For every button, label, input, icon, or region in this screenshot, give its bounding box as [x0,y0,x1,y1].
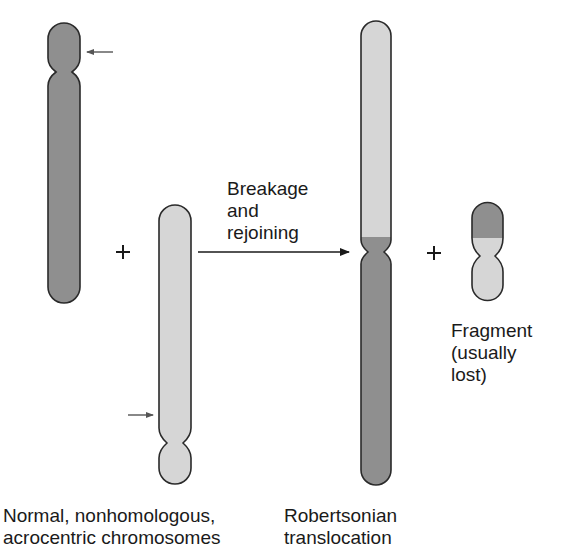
plus-sign-icon [427,246,441,260]
fragment-label-line: lost) [451,364,532,386]
acrocentric-chromosome-light [159,205,191,484]
fragment-chromosome [468,195,508,308]
process-label-line: Breakage [227,178,308,200]
right-caption-line: Robertsonian [284,505,397,527]
left-caption-line: acrocentric chromosomes [3,527,221,549]
acrocentric-chromosome-dark [48,23,80,303]
process-label-line: rejoining [227,222,308,244]
fragment-label-line: (usually [451,342,532,364]
robertsonian-chromosome [355,10,397,497]
left-caption: Normal, nonhomologous, acrocentric chrom… [3,505,221,549]
process-label-line: and [227,200,308,222]
process-label: Breakage and rejoining [227,178,308,244]
fragment-label-line: Fragment [451,320,532,342]
left-caption-line: Normal, nonhomologous, [3,505,221,527]
fragment-label: Fragment (usually lost) [451,320,532,386]
right-caption: Robertsonian translocation [284,505,397,549]
diagram-canvas [0,0,582,557]
right-caption-line: translocation [284,527,397,549]
plus-sign-icon [116,245,130,259]
